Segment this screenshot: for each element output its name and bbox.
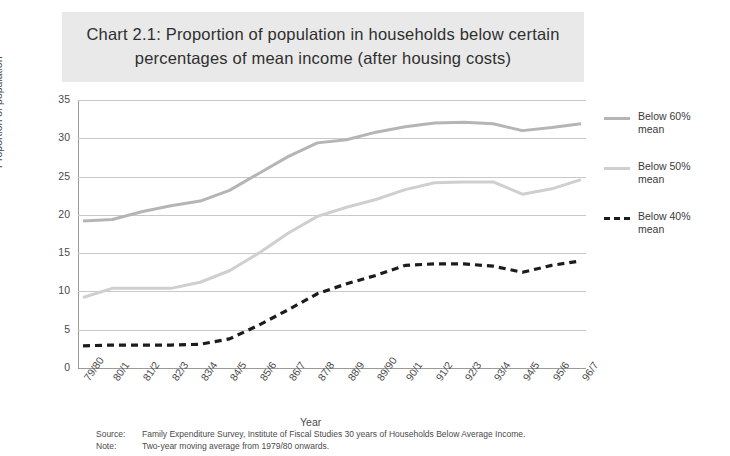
x-tick-labels: 79/8080/181/282/383/484/585/686/787/888/… — [78, 372, 598, 412]
chart-container: Chart 2.1: Proportion of population in h… — [0, 0, 730, 456]
legend-swatch — [604, 117, 630, 120]
y-tick-label: 25 — [42, 170, 70, 182]
series-line — [83, 122, 581, 221]
chart-title: Chart 2.1: Proportion of population in h… — [62, 22, 584, 70]
series-line — [83, 261, 581, 346]
footnote-key: Note: — [96, 440, 142, 452]
series-lines — [78, 100, 586, 368]
y-tick-label: 20 — [42, 208, 70, 220]
y-tick-label: 0 — [42, 361, 70, 373]
plot-area — [78, 100, 586, 368]
x-axis-title: Year — [300, 416, 321, 428]
legend-entry: Below 40% mean — [604, 212, 726, 246]
legend-label: Below 60% mean — [638, 110, 691, 136]
y-tick-labels: 05101520253035 — [40, 100, 70, 368]
legend-swatch — [604, 167, 630, 170]
footnotes: Source:Family Expenditure Survey, Instit… — [96, 428, 525, 452]
legend-label: Below 40% mean — [638, 210, 691, 236]
footnote-row: Source:Family Expenditure Survey, Instit… — [96, 428, 525, 440]
footnote-row: Note:Two-year moving average from 1979/8… — [96, 440, 525, 452]
footnote-text: Two-year moving average from 1979/80 onw… — [142, 440, 525, 452]
footnote-key: Source: — [96, 428, 142, 440]
y-tick-label: 30 — [42, 131, 70, 143]
y-axis-title: Proportion of population — [0, 57, 4, 169]
footnote-text: Family Expenditure Survey, Institute of … — [142, 428, 525, 440]
legend-label: Below 50% mean — [638, 160, 691, 186]
series-line — [83, 180, 581, 298]
y-tick-label: 5 — [42, 323, 70, 335]
legend-swatch — [604, 217, 630, 220]
y-tick-label: 10 — [42, 284, 70, 296]
y-tick-label: 15 — [42, 246, 70, 258]
legend-entry: Below 60% mean — [604, 112, 726, 146]
y-tick-label: 35 — [42, 93, 70, 105]
legend-entry: Below 50% mean — [604, 162, 726, 196]
chart-legend: Below 60% meanBelow 50% meanBelow 40% me… — [604, 112, 726, 262]
